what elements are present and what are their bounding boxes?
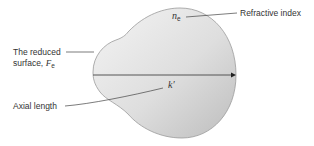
eye-shape	[93, 8, 236, 138]
axial-length-symbol: k′	[168, 79, 175, 90]
axial-length-label: Axial length	[13, 101, 57, 111]
reduced-surface-label-line1: The reduced	[13, 47, 61, 57]
reduced-surface-label-line2: surface, Fe	[13, 58, 55, 69]
refractive-index-label: Refractive index	[240, 8, 302, 18]
reduced-eye-diagram: ne k′ Refractive index The reduced surfa…	[0, 0, 314, 146]
